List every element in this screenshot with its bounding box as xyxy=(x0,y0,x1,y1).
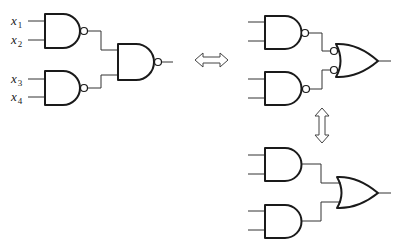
wire-and2-to-or xyxy=(302,202,341,221)
and-gate-1 xyxy=(265,148,302,181)
label-x4: x4 xyxy=(10,89,23,106)
label-x3: x3 xyxy=(10,71,23,88)
and-gate-2 xyxy=(265,205,302,238)
double-arrow-vertical-icon xyxy=(315,108,329,143)
inversion-bubble xyxy=(303,86,310,93)
inversion-bubble xyxy=(331,48,338,55)
or-gate xyxy=(337,177,378,208)
nand-gate-1 xyxy=(265,16,302,49)
circuit-nand-nand: x1 x2 x3 x4 xyxy=(10,13,173,106)
inversion-bubble xyxy=(302,30,309,37)
nand-gate-output xyxy=(118,44,154,80)
label-x1: x1 xyxy=(10,13,22,30)
wire-g1-to-or xyxy=(309,33,330,51)
nand-gate-2 xyxy=(45,71,80,105)
logic-diagram: x1 x2 x3 x4 xyxy=(0,0,403,250)
double-arrow-horizontal-icon xyxy=(195,53,228,67)
inversion-bubble xyxy=(155,59,162,66)
wire-g1-to-out xyxy=(88,31,118,50)
label-x2: x2 xyxy=(10,32,22,49)
circuit-and-or xyxy=(248,148,391,238)
nand-gate-1 xyxy=(45,14,80,48)
nand-gate-2 xyxy=(265,72,302,105)
circuit-nand-negor xyxy=(248,16,391,105)
or-gate-inverted-inputs xyxy=(336,44,378,77)
wire-and1-to-or xyxy=(302,164,341,183)
inversion-bubble xyxy=(331,67,338,74)
inversion-bubble xyxy=(81,28,88,35)
wire-g2-to-or xyxy=(310,70,330,89)
inversion-bubble xyxy=(81,85,88,92)
wire-g2-to-out xyxy=(88,75,118,88)
